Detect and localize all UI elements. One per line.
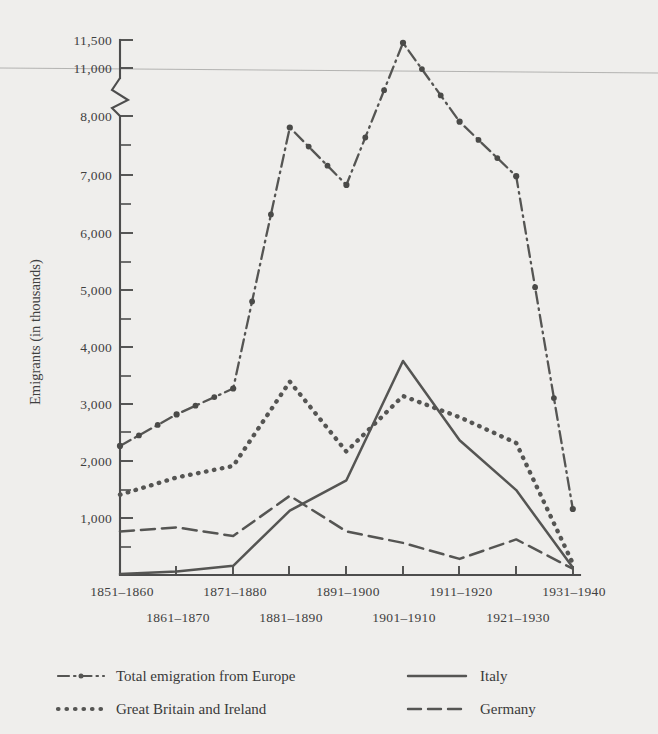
y-tick-label: 6,000 (80, 226, 112, 241)
data-point-marker (570, 506, 576, 512)
x-tick-label: 1891–1900 (316, 584, 379, 599)
legend-label-gb: Great Britain and Ireland (116, 701, 267, 717)
y-tick-label: 8,000 (80, 109, 112, 124)
x-tick-label: 1881–1890 (259, 610, 322, 625)
data-point-marker (174, 411, 180, 417)
y-tick-label: 7,000 (80, 168, 112, 183)
emigration-line-chart: 11,500 11,000 8,000 7,000 6,000 5,000 4,… (0, 0, 658, 734)
series-line-2 (120, 361, 573, 574)
y-tick-label: 1,000 (80, 511, 112, 526)
data-point-marker (551, 395, 557, 401)
data-point-marker (136, 433, 142, 439)
y-tick-label: 5,000 (80, 283, 112, 298)
data-point-marker (381, 87, 387, 93)
legend-label-germany: Germany (480, 701, 536, 717)
data-point-marker (249, 299, 255, 305)
y-tick-label: 2,000 (80, 454, 112, 469)
x-tick-label: 1871–1880 (203, 584, 266, 599)
y-axis-title: Emigrants (in thousands) (27, 259, 44, 405)
data-point-marker (494, 155, 500, 161)
legend-label-italy: Italy (480, 668, 508, 684)
data-point-marker (532, 284, 538, 290)
data-point-marker (457, 119, 463, 125)
data-point-marker (513, 173, 519, 179)
legend: Total emigration from Europe Great Brita… (58, 668, 536, 717)
x-tick-label: 1921–1930 (486, 610, 549, 625)
data-point-marker (419, 66, 425, 72)
data-point-marker (230, 385, 236, 391)
data-point-marker (268, 212, 274, 218)
legend-label-total: Total emigration from Europe (116, 668, 296, 684)
y-tick-label: 4,000 (80, 340, 112, 355)
series-layer (117, 40, 576, 574)
data-point-marker (155, 422, 161, 428)
chart-svg: 11,500 11,000 8,000 7,000 6,000 5,000 4,… (0, 0, 658, 734)
x-tick-label: 1861–1870 (146, 610, 209, 625)
data-point-marker (400, 40, 406, 46)
data-point-marker (306, 144, 312, 150)
y-tick-label: 3,000 (80, 397, 112, 412)
data-point-marker (193, 403, 199, 409)
data-point-marker (211, 394, 217, 400)
series-line-3 (120, 496, 573, 569)
data-point-marker (438, 93, 444, 99)
data-point-marker (325, 163, 331, 169)
x-tick-label: 1901–1910 (372, 610, 435, 625)
legend-marker-total (79, 674, 84, 679)
series-line-0 (120, 43, 573, 509)
x-tick-label: 1851–1860 (90, 584, 153, 599)
data-point-marker (343, 182, 349, 188)
y-tick-label: 11,000 (74, 61, 112, 76)
x-tick-label: 1911–1920 (430, 584, 493, 599)
x-tick-label: 1931–1940 (542, 584, 605, 599)
y-ticks (120, 40, 133, 547)
axis-break-symbol (112, 78, 128, 116)
data-point-marker (476, 137, 482, 143)
y-tick-label: 11,500 (74, 33, 112, 48)
data-point-marker (362, 135, 368, 141)
data-point-marker (117, 443, 123, 449)
data-point-marker (287, 124, 293, 130)
